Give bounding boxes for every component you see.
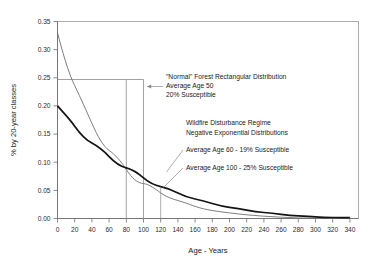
x-tick-label: 80 [123, 226, 131, 233]
x-tick-label: 200 [224, 226, 235, 233]
annotation-rectangular-line-3: 20% Susceptible [166, 91, 216, 99]
x-tick-label: 240 [258, 226, 269, 233]
chart-figure: 0.00 0.05 0.10 0.15 0.20 0.25 0.30 0.35 [0, 0, 378, 276]
y-tick-label: 0.15 [38, 130, 51, 137]
x-tick-label: 60 [105, 226, 113, 233]
chart-svg: 0.00 0.05 0.10 0.15 0.20 0.25 0.30 0.35 [0, 0, 378, 276]
y-tick-label: 0.05 [38, 187, 51, 194]
x-tick-label: 280 [293, 226, 304, 233]
x-tick-label: 120 [155, 226, 166, 233]
y-axis-title: % by 20-year classes [9, 84, 18, 156]
x-tick-label: 320 [327, 226, 338, 233]
y-tick-label: 0.20 [38, 102, 51, 109]
y-tick-label: 0.35 [38, 18, 51, 25]
y-tick-label: 0.10 [38, 159, 51, 166]
y-tick-label: 0.25 [38, 74, 51, 81]
y-tick-label: 0.00 [38, 215, 51, 222]
annotation-wildfire-line-1: Wildfire Disturbance Regime [186, 119, 271, 127]
x-tick-label: 260 [276, 226, 287, 233]
x-tick-label: 140 [172, 226, 183, 233]
x-tick-label: 100 [138, 226, 149, 233]
annotation-wildfire-line-2: Negative Exponential Distributions [186, 129, 289, 137]
x-tick-label: 0 [56, 226, 60, 233]
annotation-rectangular-line-2: Average Age 50 [166, 82, 214, 90]
x-axis-title: Age - Years [188, 246, 227, 255]
x-tick-label: 160 [190, 226, 201, 233]
x-tick-label: 40 [88, 226, 96, 233]
x-tick-label: 220 [241, 226, 252, 233]
y-tick-label: 0.30 [38, 46, 51, 53]
annotation-age-100-label: Average Age 100 - 25% Susceptible [186, 164, 293, 172]
annotation-age-60-label: Average Age 60 - 19% Susceptible [186, 146, 290, 154]
x-tick-label: 180 [207, 226, 218, 233]
annotation-rectangular-line-1: "Normal" Forest Rectangular Distribution [166, 73, 287, 81]
x-tick-label: 20 [71, 226, 79, 233]
x-tick-label: 300 [310, 226, 321, 233]
chart-background [0, 0, 378, 276]
x-tick-label: 340 [344, 226, 355, 233]
